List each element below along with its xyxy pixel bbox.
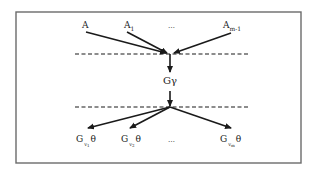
arrow-a1-to-merge <box>127 32 167 53</box>
arrow-a0-to-merge <box>86 32 166 53</box>
arrow-split-to-gv2 <box>130 107 170 128</box>
input-ellipsis: … <box>168 22 175 30</box>
arrow-split-to-gv1 <box>88 107 170 128</box>
arrow-am1-to-merge <box>174 33 231 53</box>
output-label-gvm: Gvmθ <box>220 134 241 148</box>
input-label-a: A <box>81 20 89 30</box>
output-label-gv1: Gv1θ <box>76 134 96 148</box>
output-ellipsis: … <box>168 136 175 144</box>
output-label-gv2: Gv2θ <box>121 134 141 148</box>
diagram-canvas: A A1 … Am-1 Gγ Gv1θ Gv2θ … Gvmθ <box>0 0 317 171</box>
center-node-label: Gγ <box>163 75 177 86</box>
diagram-frame <box>16 12 301 163</box>
input-label-am1: Am-1 <box>222 20 241 32</box>
input-label-a1: A1 <box>123 20 134 32</box>
arrow-split-to-gvm <box>170 107 231 128</box>
